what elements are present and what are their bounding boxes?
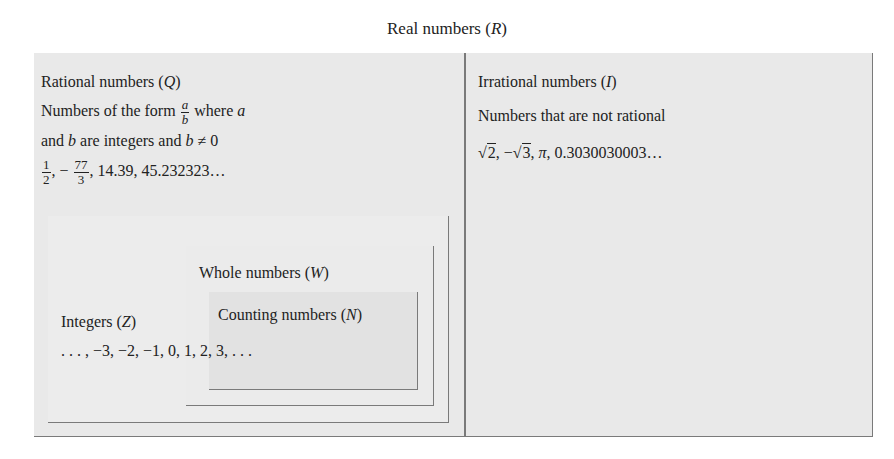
desc-text: and [41, 132, 68, 149]
rational-irrational-divider [464, 53, 466, 437]
diagram-title: Real numbers (R) [0, 19, 894, 39]
integers-examples: . . . , −3, −2, −1, 0, 1, 2, 3, . . . [61, 343, 252, 359]
desc-text: are integers and [76, 132, 185, 149]
counting-heading-suffix: ) [357, 306, 362, 323]
fraction-one-half: 12 [42, 158, 51, 186]
radicand: 3 [522, 143, 531, 161]
rational-heading: Rational numbers (Q) [41, 74, 181, 90]
irrational-heading-text: Irrational numbers ( [478, 73, 606, 90]
title-suffix: ) [501, 19, 507, 38]
separator: , [531, 144, 539, 161]
desc-text: ≠ 0 [193, 132, 218, 149]
sqrt-3: √3 [513, 145, 531, 161]
frac-numerator: 77 [74, 158, 89, 173]
var-b: b [68, 132, 76, 149]
integers-heading: Integers (Z) [61, 314, 136, 330]
examples-rest: , 14.39, 45.232323… [90, 162, 226, 179]
rational-description-line2: and b are integers and b ≠ 0 [41, 133, 218, 149]
counting-numbers-heading: Counting numbers (N) [218, 307, 362, 323]
whole-symbol: W [310, 264, 323, 281]
frac-denominator: b [181, 113, 190, 127]
rational-heading-suffix: ) [175, 73, 180, 90]
rational-description-line1: Numbers of the form ab where a [41, 98, 245, 126]
whole-numbers-heading: Whole numbers (W) [199, 265, 329, 281]
counting-heading-text: Counting numbers ( [218, 306, 346, 323]
separator: , − [496, 144, 513, 161]
integers-symbol: Z [122, 313, 131, 330]
radicand: 2 [487, 143, 496, 161]
rational-symbol: Q [164, 73, 176, 90]
frac-denominator: 2 [42, 173, 51, 187]
desc-text: where [190, 102, 237, 119]
title-symbol: R [491, 19, 501, 38]
examples-rest: , 0.3030030003… [547, 144, 663, 161]
pi-symbol: π [539, 144, 547, 161]
var-a: a [237, 102, 245, 119]
title-text: Real numbers ( [387, 19, 491, 38]
irrational-heading: Irrational numbers (I) [478, 74, 617, 90]
irrational-description: Numbers that are not rational [478, 108, 666, 124]
whole-heading-suffix: ) [323, 264, 328, 281]
counting-symbol: N [346, 306, 357, 323]
integers-heading-text: Integers ( [61, 313, 122, 330]
fraction-a-over-b: ab [181, 98, 190, 126]
irrational-examples: √2, −√3, π, 0.3030030003… [478, 145, 663, 161]
sqrt-2: √2 [478, 145, 496, 161]
rational-examples: 12, − 773, 14.39, 45.232323… [41, 158, 226, 186]
desc-text: Numbers of the form [41, 102, 180, 119]
frac-numerator: a [181, 98, 190, 113]
irrational-heading-suffix: ) [611, 73, 616, 90]
fraction-77-over-3: 773 [74, 158, 89, 186]
rational-heading-text: Rational numbers ( [41, 73, 164, 90]
frac-denominator: 3 [74, 173, 89, 187]
separator: , − [52, 162, 73, 179]
whole-heading-text: Whole numbers ( [199, 264, 310, 281]
frac-numerator: 1 [42, 158, 51, 173]
integers-heading-suffix: ) [131, 313, 136, 330]
